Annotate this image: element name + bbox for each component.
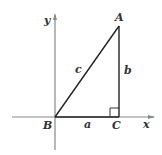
side-c	[55, 26, 119, 117]
vertex-a-label: A	[114, 11, 124, 24]
vertex-c-label: C	[112, 119, 121, 132]
side-a-label: a	[84, 118, 91, 131]
vertex-b-label: B	[42, 119, 52, 132]
x-axis-label: x	[142, 118, 150, 131]
triangle-diagram: y x A B C a b c	[0, 0, 162, 155]
y-axis-arrow-icon	[53, 13, 57, 20]
side-c-label: c	[75, 63, 82, 76]
right-angle-icon	[110, 108, 119, 117]
side-b-label: b	[124, 64, 132, 77]
y-axis-label: y	[43, 14, 52, 27]
